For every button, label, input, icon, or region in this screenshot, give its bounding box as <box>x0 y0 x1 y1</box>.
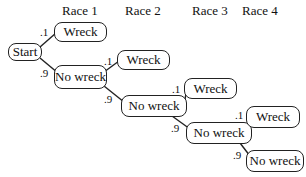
prob-race3-wreck: .1 <box>172 83 180 95</box>
header-race-2: Race 2 <box>125 3 161 19</box>
prob-race1-no-wreck: .9 <box>40 67 48 79</box>
prob-race3-no-wreck: .9 <box>171 122 179 134</box>
prob-race4-no-wreck: .9 <box>233 149 241 161</box>
prob-race4-wreck: .1 <box>235 109 243 121</box>
node-race2-no-wreck: No wreck <box>121 95 187 117</box>
header-race-4: Race 4 <box>242 3 278 19</box>
node-race4-wreck: Wreck <box>246 106 300 128</box>
node-race3-no-wreck: No wreck <box>186 122 252 144</box>
prob-race2-wreck: .1 <box>104 55 112 67</box>
prob-race2-no-wreck: .9 <box>104 93 112 105</box>
node-race2-wreck: Wreck <box>117 50 170 70</box>
node-race3-wreck: Wreck <box>184 78 237 99</box>
node-start: Start <box>8 43 42 61</box>
node-race1-no-wreck: No wreck <box>54 65 107 89</box>
node-race1-wreck: Wreck <box>54 22 107 42</box>
prob-race1-wreck: .1 <box>40 26 48 38</box>
header-race-3: Race 3 <box>192 3 228 19</box>
node-race4-no-wreck: No wreck <box>246 150 304 172</box>
header-race-1: Race 1 <box>62 3 98 19</box>
